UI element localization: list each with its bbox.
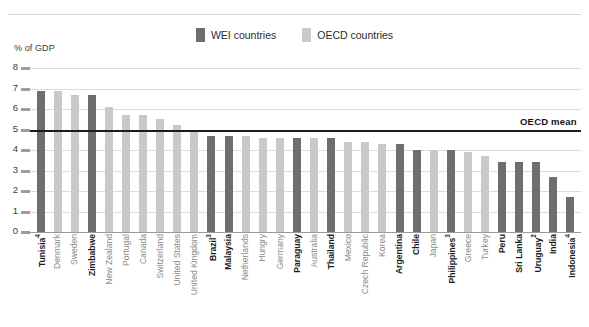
bar-indonesia[interactable]: [566, 197, 574, 232]
cat-slot: Germany: [271, 234, 288, 327]
bar-hungry[interactable]: [259, 138, 267, 232]
cat-slot: Philippines3: [442, 234, 459, 327]
cat-slot: Switzerland: [152, 234, 169, 327]
bar-slot: [425, 68, 442, 232]
y-tick-mark: [21, 67, 30, 70]
bar-canada[interactable]: [139, 115, 147, 232]
oecd-mean-line: [30, 130, 581, 132]
bar-malaysia[interactable]: [225, 136, 233, 232]
x-label-switzerland: Switzerland: [156, 234, 165, 278]
bar-czech-republic[interactable]: [361, 142, 369, 232]
bar-slot: [32, 68, 49, 232]
bar-argentina[interactable]: [396, 144, 404, 232]
x-label-new-zealand: New Zealand: [105, 234, 114, 285]
bar-turkey[interactable]: [481, 156, 489, 232]
bar-germany[interactable]: [276, 138, 284, 232]
cat-slot: Indonesia4: [562, 234, 579, 327]
y-tick-label: 4: [6, 143, 18, 154]
bar-peru[interactable]: [498, 162, 506, 232]
chart-legend: WEI countriesOECD countries: [0, 28, 589, 42]
x-label-australia: Australia: [310, 234, 319, 267]
bar-brazil[interactable]: [207, 136, 215, 232]
bar-new-zealand[interactable]: [105, 107, 113, 232]
x-label-united-kingdom: United Kingdom: [190, 234, 199, 295]
y-tick-label: 5: [6, 123, 18, 134]
x-label-turkey: Turkey: [481, 234, 490, 260]
bar-slot: [49, 68, 66, 232]
cat-slot: Chile: [408, 234, 425, 327]
y-tick-mark: [21, 190, 30, 193]
cat-slot: Mexico: [340, 234, 357, 327]
cat-slot: United States: [169, 234, 186, 327]
x-label-argentina: Argentina: [395, 234, 404, 274]
bar-india[interactable]: [549, 177, 557, 232]
x-label-hungry: Hungry: [258, 234, 267, 262]
top-divider: [8, 14, 581, 15]
cat-slot: Sri Lanka: [511, 234, 528, 327]
x-label-peru: Peru: [498, 234, 507, 253]
y-tick-label: 6: [6, 102, 18, 113]
bar-slot: [511, 68, 528, 232]
bar-portugal[interactable]: [122, 115, 130, 232]
cat-slot: Korea: [374, 234, 391, 327]
cat-slot: Czech Republic: [357, 234, 374, 327]
bar-slot: [562, 68, 579, 232]
bar-sweden[interactable]: [71, 95, 79, 232]
x-label-philippines: Philippines3: [445, 234, 456, 283]
oecd-mean-label: OECD mean: [520, 116, 577, 127]
bar-slot: [459, 68, 476, 232]
cat-slot: Denmark: [49, 234, 66, 327]
y-tick-mark: [21, 149, 30, 152]
cat-slot: Canada: [135, 234, 152, 327]
bar-slot: [476, 68, 493, 232]
bar-slot: [83, 68, 100, 232]
bar-slot: [100, 68, 117, 232]
bar-greece[interactable]: [464, 152, 472, 232]
bar-zimbabwe[interactable]: [88, 95, 96, 232]
bar-philippines[interactable]: [447, 150, 455, 232]
bar-slot: [323, 68, 340, 232]
bar-denmark[interactable]: [54, 91, 62, 232]
bar-japan[interactable]: [430, 150, 438, 232]
x-label-germany: Germany: [276, 234, 285, 269]
bar-thailand[interactable]: [327, 138, 335, 232]
bar-slot: [152, 68, 169, 232]
cat-slot: Peru: [494, 234, 511, 327]
bar-switzerland[interactable]: [156, 119, 164, 232]
footnote-marker: 2: [530, 234, 537, 238]
bar-mexico[interactable]: [344, 142, 352, 232]
cat-slot: Portugal: [117, 234, 134, 327]
y-axis: 012345678: [0, 68, 30, 232]
x-label-sri-lanka: Sri Lanka: [515, 234, 524, 273]
bar-tunisia[interactable]: [37, 91, 45, 232]
footnote-marker: 4: [564, 234, 571, 238]
x-label-denmark: Denmark: [53, 234, 62, 269]
bar-slot: [254, 68, 271, 232]
bar-sri-lanka[interactable]: [515, 162, 523, 232]
bar-chile[interactable]: [413, 150, 421, 232]
bar-korea[interactable]: [378, 144, 386, 232]
x-label-tunisia: Tunisia4: [35, 234, 46, 267]
x-label-zimbabwe: Zimbabwe: [88, 234, 97, 276]
legend-swatch-oecd: [302, 28, 311, 42]
cat-slot: Paraguay: [288, 234, 305, 327]
bar-united-kingdom[interactable]: [190, 132, 198, 232]
x-label-paraguay: Paraguay: [293, 234, 302, 273]
bar-united-states[interactable]: [173, 125, 181, 232]
x-label-sweden: Sweden: [70, 234, 79, 265]
cat-slot: Argentina: [391, 234, 408, 327]
bar-slot: [357, 68, 374, 232]
y-axis-title: % of GDP: [14, 43, 55, 53]
legend-item-wei[interactable]: WEI countries: [196, 28, 276, 42]
cat-slot: Zimbabwe: [83, 234, 100, 327]
bar-uruguay[interactable]: [532, 162, 540, 232]
x-label-greece: Greece: [464, 234, 473, 262]
footnote-marker: 3: [444, 234, 451, 238]
cat-slot: Malaysia: [220, 234, 237, 327]
bar-australia[interactable]: [310, 138, 318, 232]
bar-paraguay[interactable]: [293, 138, 301, 232]
legend-item-oecd[interactable]: OECD countries: [302, 28, 393, 42]
y-tick-mark: [21, 170, 30, 173]
bar-netherlands[interactable]: [242, 136, 250, 232]
bar-slot: [271, 68, 288, 232]
